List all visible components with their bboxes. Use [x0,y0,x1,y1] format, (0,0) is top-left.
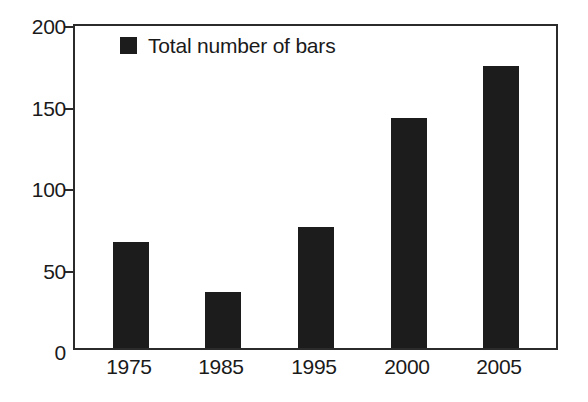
bar-1985[interactable] [205,292,241,348]
y-axis-tick-100 [65,189,75,191]
bars-layer [75,26,556,348]
x-axis-label-1995: 1995 [291,356,337,377]
bar-chart-figure: 200 150 100 50 0 Total number of bars [0,0,588,402]
bar-2005[interactable] [483,66,519,348]
y-axis-tick-50 [65,271,75,273]
bar-1975[interactable] [113,242,149,348]
x-axis-label-2005: 2005 [476,356,522,377]
y-axis-label-200: 200 [32,16,66,37]
y-axis-label-50: 50 [43,260,66,281]
y-axis-tick-150 [65,108,75,110]
y-axis-label-150: 150 [32,97,66,118]
y-axis-tick-200 [65,26,75,28]
x-axis-label-2000: 2000 [384,356,430,377]
bar-2000[interactable] [391,118,427,348]
plot-area: 200 150 100 50 0 Total number of bars [73,24,558,350]
bar-1995[interactable] [298,227,334,348]
x-axis-label-1975: 1975 [106,356,152,377]
x-axis-label-1985: 1985 [198,356,244,377]
y-axis-label-100: 100 [32,179,66,200]
y-axis-label-0: 0 [55,342,66,363]
